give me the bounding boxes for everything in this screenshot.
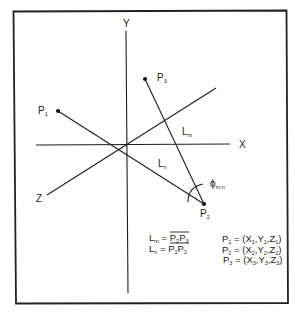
point-p1-dot xyxy=(56,109,60,113)
z-axis-label: Z xyxy=(36,193,42,204)
ln-definition: Ln = P1P2 xyxy=(149,243,187,255)
x-axis xyxy=(36,144,230,145)
angle-arc xyxy=(188,184,203,202)
segment-lm-label: Lm xyxy=(182,126,193,138)
point-p2-label: P2 xyxy=(200,208,210,220)
y-axis-label: Y xyxy=(123,18,130,29)
vector-diagram: Y X Z P1 P3 P2 Lm Ln ϕm,n Lm = P2P3 Ln =… xyxy=(0,0,295,312)
point-p2-dot xyxy=(202,202,206,206)
point-p3-label: P3 xyxy=(157,72,167,84)
point-p3-dot xyxy=(143,77,147,81)
y-axis xyxy=(126,31,128,293)
z-axis xyxy=(47,88,216,195)
x-axis-label: X xyxy=(239,139,246,150)
segment-ln-label: Ln xyxy=(158,158,167,170)
point-p1-label: P1 xyxy=(38,105,48,117)
angle-label: ϕm,n xyxy=(210,178,225,190)
